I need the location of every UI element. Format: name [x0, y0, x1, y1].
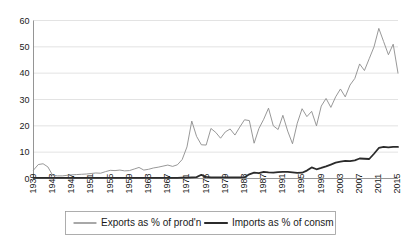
y-tick-label: 50 [19, 42, 29, 52]
y-tick-label: 30 [19, 95, 29, 105]
chart-legend: Exports as % of prod'nImports as % of co… [66, 212, 336, 235]
x-tick-label: 2003 [335, 173, 345, 193]
x-tick-label: 1967 [162, 173, 172, 193]
x-tick-label: 1971 [181, 173, 191, 193]
x-tick-label: 1991 [277, 173, 287, 193]
chart-container: 0102030405060 19391943194719511955195919… [0, 0, 401, 245]
gridlines [34, 21, 399, 179]
x-tick-label: 2011 [373, 174, 383, 193]
y-tick-label: 20 [19, 121, 29, 131]
x-tick-label: 1979 [220, 173, 230, 193]
x-tick-label: 1943 [47, 173, 57, 193]
x-tick-label: 1999 [316, 173, 326, 193]
x-tick-label: 1955 [105, 173, 115, 193]
x-tick-label: 1959 [124, 173, 134, 193]
x-tick-label: 1987 [258, 173, 268, 193]
x-tick-label: 1939 [28, 173, 38, 193]
x-axis: 1939194319471951195519591963196719711975… [28, 173, 401, 193]
x-tick-label: 2007 [354, 173, 364, 193]
legend-label-1: Imports as % of consm [232, 217, 334, 228]
y-tick-label: 10 [19, 147, 29, 157]
x-tick-label: 1995 [296, 173, 306, 193]
x-tick-label: 2015 [392, 173, 401, 193]
y-tick-label: 40 [19, 68, 29, 78]
y-axis: 0102030405060 [19, 16, 33, 184]
x-tick-label: 1963 [143, 173, 153, 193]
x-tick-label: 1951 [85, 173, 95, 193]
x-tick-label: 1947 [66, 173, 76, 193]
line-chart: 0102030405060 19391943194719511955195919… [0, 0, 401, 245]
legend-label-0: Exports as % of prod'n [101, 217, 201, 228]
series-line-0 [34, 28, 399, 175]
plot-series [34, 28, 399, 178]
series-line-1 [34, 147, 399, 178]
y-tick-label: 60 [19, 16, 29, 26]
